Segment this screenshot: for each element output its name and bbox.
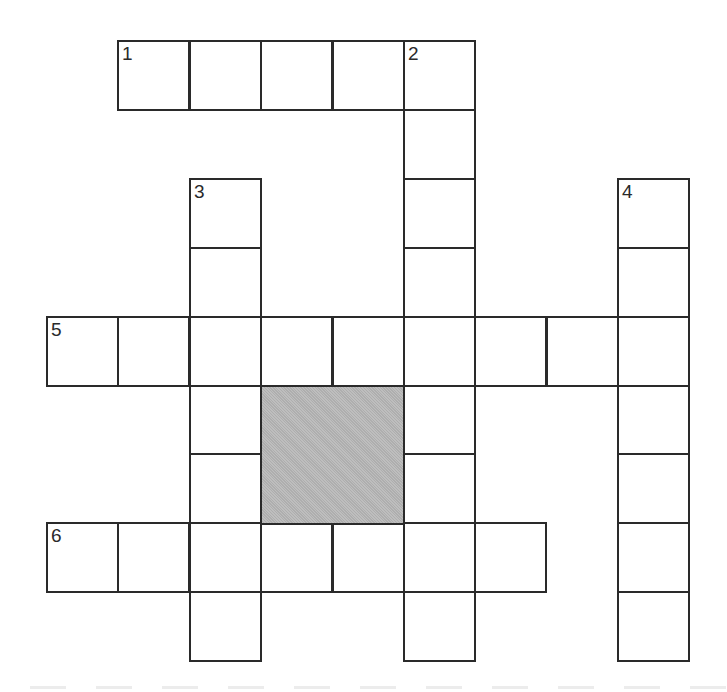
crossword-cell[interactable] <box>617 316 690 387</box>
crossword-cell[interactable] <box>403 385 476 456</box>
crossword-cell[interactable] <box>617 591 690 662</box>
crossword-cell[interactable] <box>189 453 262 524</box>
crossword-cell[interactable] <box>189 316 262 387</box>
crossword-cell[interactable] <box>117 522 190 593</box>
crossword-cell[interactable] <box>260 316 333 387</box>
crossword-cell[interactable] <box>617 522 690 593</box>
cell-letter-input[interactable] <box>405 593 474 660</box>
crossword-cell[interactable]: 2 <box>403 40 476 111</box>
shaded-block <box>260 385 405 525</box>
cell-letter-input[interactable] <box>119 524 188 591</box>
crossword-cell[interactable] <box>403 178 476 249</box>
cell-letter-input[interactable] <box>191 455 260 522</box>
crossword-cell[interactable]: 5 <box>46 316 119 387</box>
cell-letter-input[interactable] <box>191 180 260 247</box>
crossword-cell[interactable] <box>189 522 262 593</box>
crossword-cell[interactable]: 4 <box>617 178 690 249</box>
cell-letter-input[interactable] <box>405 318 474 385</box>
crossword-cell[interactable] <box>546 316 619 387</box>
crossword-cell[interactable]: 6 <box>46 522 119 593</box>
crossword-cell[interactable]: 3 <box>189 178 262 249</box>
cell-letter-input[interactable] <box>619 524 688 591</box>
cell-letter-input[interactable] <box>191 249 260 316</box>
cell-letter-input[interactable] <box>405 249 474 316</box>
cell-letter-input[interactable] <box>619 249 688 316</box>
crossword-cell[interactable] <box>617 247 690 318</box>
cell-letter-input[interactable] <box>191 524 260 591</box>
cell-letter-input[interactable] <box>119 42 188 109</box>
cell-letter-input[interactable] <box>262 42 331 109</box>
cell-letter-input[interactable] <box>334 42 403 109</box>
cell-letter-input[interactable] <box>405 387 474 454</box>
cell-letter-input[interactable] <box>476 318 545 385</box>
cell-letter-input[interactable] <box>48 524 117 591</box>
crossword-cell[interactable] <box>189 385 262 456</box>
cell-letter-input[interactable] <box>619 593 688 660</box>
crossword-grid: 123456 <box>0 0 727 692</box>
crossword-cell[interactable] <box>403 109 476 180</box>
cell-letter-input[interactable] <box>619 455 688 522</box>
crossword-cell[interactable] <box>474 316 547 387</box>
crossword-cell[interactable] <box>117 316 190 387</box>
cell-letter-input[interactable] <box>405 455 474 522</box>
footer-marks <box>0 686 727 692</box>
cell-letter-input[interactable] <box>191 42 260 109</box>
crossword-cell[interactable]: 1 <box>117 40 190 111</box>
cell-letter-input[interactable] <box>119 318 188 385</box>
crossword-cell[interactable] <box>403 591 476 662</box>
crossword-cell[interactable] <box>332 316 405 387</box>
cell-letter-input[interactable] <box>476 524 545 591</box>
crossword-cell[interactable] <box>189 40 262 111</box>
crossword-cell[interactable] <box>474 522 547 593</box>
crossword-cell[interactable] <box>332 40 405 111</box>
cell-letter-input[interactable] <box>619 318 688 385</box>
cell-letter-input[interactable] <box>405 111 474 178</box>
crossword-cell[interactable] <box>403 316 476 387</box>
cell-letter-input[interactable] <box>191 318 260 385</box>
crossword-cell[interactable] <box>332 522 405 593</box>
crossword-cell[interactable] <box>189 591 262 662</box>
crossword-cell[interactable] <box>617 385 690 456</box>
cell-letter-input[interactable] <box>405 42 474 109</box>
cell-letter-input[interactable] <box>334 318 403 385</box>
crossword-cell[interactable] <box>260 40 333 111</box>
cell-letter-input[interactable] <box>262 524 331 591</box>
crossword-cell[interactable] <box>403 453 476 524</box>
crossword-cell[interactable] <box>260 522 333 593</box>
crossword-cell[interactable] <box>189 247 262 318</box>
crossword-cell[interactable] <box>403 247 476 318</box>
cell-letter-input[interactable] <box>405 524 474 591</box>
cell-letter-input[interactable] <box>548 318 617 385</box>
cell-letter-input[interactable] <box>191 387 260 454</box>
cell-letter-input[interactable] <box>619 387 688 454</box>
crossword-cell[interactable] <box>403 522 476 593</box>
cell-letter-input[interactable] <box>405 180 474 247</box>
cell-letter-input[interactable] <box>619 180 688 247</box>
crossword-cell[interactable] <box>617 453 690 524</box>
cell-letter-input[interactable] <box>262 318 331 385</box>
cell-letter-input[interactable] <box>191 593 260 660</box>
cell-letter-input[interactable] <box>334 524 403 591</box>
cell-letter-input[interactable] <box>48 318 117 385</box>
